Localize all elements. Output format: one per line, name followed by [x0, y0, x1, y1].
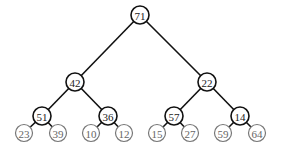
- leaf-node: 23: [16, 125, 33, 142]
- node-label: 27: [185, 128, 197, 140]
- tree-edge: [75, 15, 140, 82]
- node-label: 51: [37, 111, 48, 123]
- node-label: 36: [103, 111, 115, 123]
- tree-node: 57: [165, 107, 183, 125]
- node-label: 22: [202, 77, 213, 89]
- leaf-node: 39: [50, 125, 67, 142]
- node-label: 12: [119, 128, 130, 140]
- tree-node: 71: [131, 6, 149, 24]
- leaf-node: 59: [215, 125, 232, 142]
- leaf-node: 10: [83, 125, 100, 142]
- node-label: 10: [86, 128, 98, 140]
- node-label: 15: [152, 128, 164, 140]
- node-label: 39: [53, 128, 65, 140]
- node-label: 57: [169, 111, 181, 123]
- tree-node: 14: [231, 107, 249, 125]
- leaf-node: 15: [149, 125, 166, 142]
- tree-node: 22: [198, 73, 216, 91]
- node-label: 14: [235, 111, 247, 123]
- node-label: 71: [135, 10, 146, 22]
- binary-tree-diagram: 714222513657142339101215275964: [0, 0, 285, 161]
- node-label: 42: [70, 77, 81, 89]
- leaf-node: 64: [249, 125, 266, 142]
- leaf-node: 12: [116, 125, 133, 142]
- node-label: 59: [218, 128, 230, 140]
- tree-edge: [140, 15, 207, 82]
- tree-node: 51: [33, 107, 51, 125]
- tree-node: 36: [99, 107, 117, 125]
- tree-node: 42: [66, 73, 84, 91]
- leaf-node: 27: [182, 125, 199, 142]
- node-label: 64: [252, 128, 264, 140]
- node-label: 23: [19, 128, 31, 140]
